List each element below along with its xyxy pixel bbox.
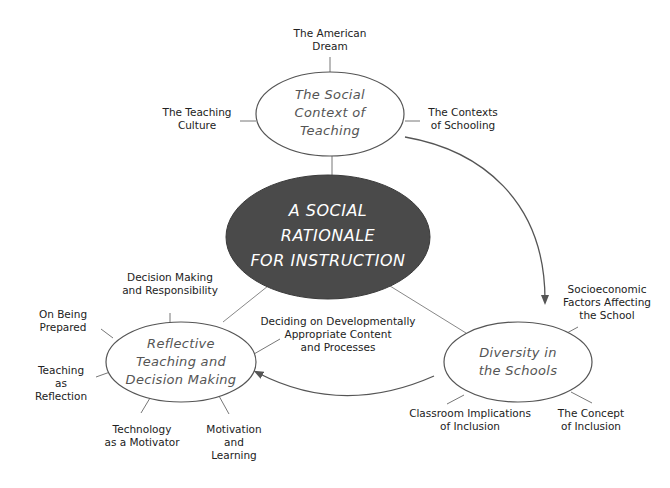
line: Teaching and bbox=[106, 353, 256, 371]
line: RATIONALE bbox=[226, 223, 430, 248]
line: A SOCIAL bbox=[226, 198, 430, 223]
label-contexts-schooling: The Contexts of Schooling bbox=[422, 106, 504, 132]
spoke-motivation bbox=[219, 396, 229, 414]
label-concept-inclusion: The Concept of Inclusion bbox=[550, 407, 632, 433]
label-american-dream: The American Dream bbox=[280, 27, 380, 53]
line: Prepared bbox=[32, 321, 94, 334]
label-teaching-reflection: Teaching as Reflection bbox=[28, 364, 94, 403]
line: Decision Making bbox=[108, 271, 232, 284]
line: Teaching bbox=[256, 122, 404, 140]
label-classroom-implications: Classroom Implications of Inclusion bbox=[400, 407, 540, 433]
spoke-socioeconomic bbox=[567, 327, 578, 333]
line: the School bbox=[552, 309, 662, 322]
line: The Social bbox=[256, 86, 404, 104]
line: Classroom Implications bbox=[400, 407, 540, 420]
line: and bbox=[202, 436, 266, 449]
arrow-diversity-to-reflective bbox=[258, 373, 434, 396]
line: and Processes bbox=[258, 341, 418, 354]
label-motivation: Motivation and Learning bbox=[202, 423, 266, 462]
line: Motivation bbox=[202, 423, 266, 436]
line: Teaching bbox=[28, 364, 94, 377]
spoke-concept-inclusion bbox=[571, 392, 592, 403]
line: The Contexts bbox=[422, 106, 504, 119]
node-center-label: A SOCIAL RATIONALE FOR INSTRUCTION bbox=[226, 198, 430, 273]
line: The Concept bbox=[550, 407, 632, 420]
label-on-being-prepared: On Being Prepared bbox=[32, 308, 94, 334]
line: Decision Making bbox=[106, 371, 256, 389]
line: FOR INSTRUCTION bbox=[226, 248, 430, 273]
line: Factors Affecting bbox=[552, 296, 662, 309]
line: Reflective bbox=[106, 335, 256, 353]
line: of Inclusion bbox=[550, 420, 632, 433]
label-developmental: Deciding on Developmentally Appropriate … bbox=[258, 315, 418, 354]
line: On Being bbox=[32, 308, 94, 321]
line: of Inclusion bbox=[400, 420, 540, 433]
line: of Schooling bbox=[422, 119, 504, 132]
line: as bbox=[28, 377, 94, 390]
line: Diversity in bbox=[444, 344, 592, 362]
label-teaching-culture: The Teaching Culture bbox=[155, 106, 239, 132]
line: and Responsibility bbox=[108, 284, 232, 297]
concept-map: The Social Context of Teaching A SOCIAL … bbox=[0, 0, 670, 488]
line: Learning bbox=[202, 449, 266, 462]
line: The American bbox=[280, 27, 380, 40]
label-technology: Technology as a Motivator bbox=[92, 423, 192, 449]
line: as a Motivator bbox=[92, 436, 192, 449]
line: Deciding on Developmentally bbox=[258, 315, 418, 328]
line: Socioeconomic bbox=[552, 283, 662, 296]
line: The Teaching bbox=[155, 106, 239, 119]
node-social-context-label: The Social Context of Teaching bbox=[256, 86, 404, 140]
line: Dream bbox=[280, 40, 380, 53]
label-socioeconomic: Socioeconomic Factors Affecting the Scho… bbox=[552, 283, 662, 322]
line: Context of bbox=[256, 104, 404, 122]
line: Culture bbox=[155, 119, 239, 132]
node-reflective-label: Reflective Teaching and Decision Making bbox=[106, 335, 256, 389]
line: Technology bbox=[92, 423, 192, 436]
node-diversity-label: Diversity in the Schools bbox=[444, 344, 592, 380]
spoke-classroom-implications bbox=[447, 395, 464, 404]
line: Appropriate Content bbox=[258, 328, 418, 341]
line: the Schools bbox=[444, 362, 592, 380]
line: Reflection bbox=[28, 390, 94, 403]
label-decision-making: Decision Making and Responsibility bbox=[108, 271, 232, 297]
spoke-technology bbox=[141, 398, 150, 413]
